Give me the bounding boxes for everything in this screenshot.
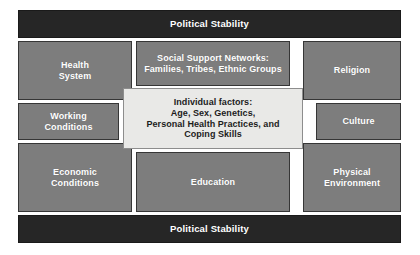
- box-religion: Religion: [303, 41, 401, 100]
- banner-political-stability-bottom: Political Stability: [18, 215, 401, 243]
- banner-top-label: Political Stability: [167, 18, 252, 29]
- box-social-support-networks: Social Support Networks: Families, Tribe…: [136, 41, 290, 86]
- box-social-support-networks-label: Social Support Networks: Families, Tribe…: [141, 53, 285, 74]
- determinants-of-health-diagram: Political Stability Health System Workin…: [0, 0, 420, 255]
- box-health-system-label: Health System: [56, 60, 95, 81]
- box-education: Education: [136, 152, 290, 212]
- box-individual-factors-label: Individual factors: Age, Sex, Genetics, …: [143, 97, 282, 139]
- box-health-system: Health System: [18, 41, 132, 100]
- banner-bottom-label: Political Stability: [167, 223, 252, 234]
- box-economic-conditions-label: Economic Conditions: [48, 167, 102, 188]
- banner-political-stability-top: Political Stability: [18, 10, 401, 38]
- box-education-label: Education: [188, 177, 238, 188]
- box-physical-environment-label: Physical Environment: [321, 167, 383, 188]
- box-religion-label: Religion: [331, 65, 373, 76]
- box-economic-conditions: Economic Conditions: [18, 143, 132, 212]
- box-working-conditions-label: Working Conditions: [42, 111, 96, 132]
- box-culture: Culture: [316, 103, 401, 140]
- box-individual-factors: Individual factors: Age, Sex, Genetics, …: [123, 88, 303, 149]
- box-culture-label: Culture: [339, 116, 377, 127]
- box-working-conditions: Working Conditions: [18, 103, 119, 140]
- box-physical-environment: Physical Environment: [303, 143, 401, 212]
